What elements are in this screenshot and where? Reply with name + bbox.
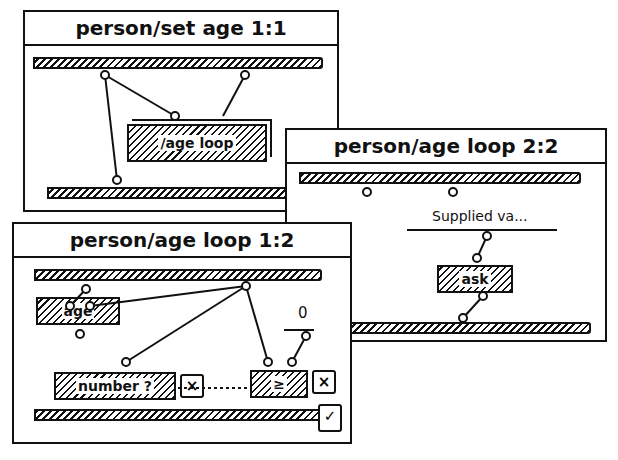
datalinks: [14, 224, 354, 446]
window-age-loop-1[interactable]: person/age loop 1:2 age number ? × ≥ × 0…: [12, 222, 352, 444]
